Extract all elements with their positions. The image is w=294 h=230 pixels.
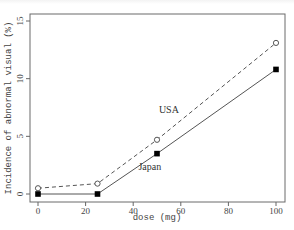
x-tick-label: 20 bbox=[81, 206, 91, 216]
y-tick-label: 0 bbox=[15, 191, 25, 196]
x-tick-label: 80 bbox=[224, 206, 234, 216]
y-axis: 051015 bbox=[15, 16, 30, 196]
chart: 051015 020406080100 USAJapan dose (mg) I… bbox=[0, 0, 294, 230]
usa-data-point bbox=[35, 186, 40, 191]
x-axis-label: dose (mg) bbox=[133, 213, 182, 223]
y-tick-label: 10 bbox=[15, 74, 25, 84]
series-label-japan: Japan bbox=[138, 161, 161, 172]
japan-data-point bbox=[95, 191, 101, 197]
usa-data-point bbox=[154, 137, 159, 142]
japan-data-point bbox=[273, 67, 279, 73]
y-tick-label: 5 bbox=[15, 134, 25, 139]
plot-frame bbox=[30, 14, 285, 202]
japan-data-point bbox=[154, 151, 160, 157]
x-tick-label: 100 bbox=[269, 206, 283, 216]
y-axis-label: Incidence of abnormal visual (%) bbox=[4, 22, 14, 195]
usa-data-point bbox=[273, 40, 278, 45]
series-line-japan bbox=[38, 69, 276, 194]
series-label-usa: USA bbox=[159, 104, 180, 115]
japan-data-point bbox=[35, 191, 41, 197]
usa-data-point bbox=[95, 181, 100, 186]
series-group bbox=[35, 40, 279, 196]
y-tick-label: 15 bbox=[15, 16, 25, 26]
x-tick-label: 0 bbox=[36, 206, 41, 216]
